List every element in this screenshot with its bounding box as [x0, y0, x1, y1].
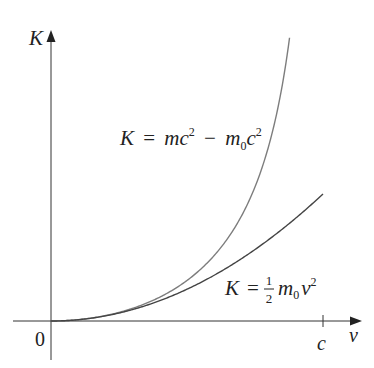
svg-text:=: =	[247, 276, 259, 300]
axes	[13, 30, 362, 360]
y-axis-arrow-icon	[47, 30, 56, 42]
svg-text:2: 2	[266, 291, 273, 306]
y-axis-label: K	[28, 26, 44, 50]
svg-text:K = mc2 −: K = mc2 − m0c2	[119, 117, 262, 153]
classical-formula-label: K = 1 2 m0v2	[224, 273, 317, 306]
svg-text:K: K	[224, 276, 240, 300]
svg-text:1: 1	[266, 273, 273, 288]
kinetic-energy-chart: K v 0 c K = mc2 − m0c2 K = 1 2 m0v2	[0, 0, 374, 368]
svg-text:m0v2: m0v2	[278, 275, 317, 302]
c-tick-label: c	[317, 332, 326, 354]
relativistic-formula-label: K = mc2 − m0c2	[119, 117, 262, 153]
classical-curve	[51, 194, 323, 321]
x-axis-label: v	[349, 324, 358, 346]
origin-label: 0	[35, 328, 45, 350]
